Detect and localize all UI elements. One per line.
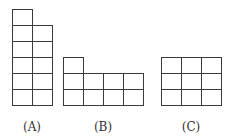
grid-cell — [201, 89, 222, 106]
figure-c-label: (C) — [182, 120, 201, 134]
grid-cell — [12, 89, 33, 106]
grid-cell — [201, 73, 222, 90]
grid-cell — [123, 89, 144, 106]
figure-b-label: (B) — [94, 120, 112, 134]
grid-cell — [63, 73, 84, 90]
grid-cell — [181, 73, 202, 90]
grid-cell — [12, 73, 33, 90]
grid-cell — [63, 57, 84, 74]
grid-cell — [181, 57, 202, 74]
grid-cell — [83, 89, 104, 106]
grid-cell — [161, 89, 182, 106]
grid-cell — [12, 57, 33, 74]
grid-cell — [103, 89, 124, 106]
grid-cell — [12, 25, 33, 42]
grid-cell — [32, 89, 53, 106]
grid-cell — [32, 25, 53, 42]
grid-cell — [12, 41, 33, 58]
grid-cell — [161, 57, 182, 74]
grid-cell — [32, 41, 53, 58]
diagram-canvas: (A) (B) (C) — [0, 0, 234, 136]
grid-cell — [63, 89, 84, 106]
grid-cell — [83, 73, 104, 90]
grid-cell — [123, 73, 144, 90]
grid-cell — [161, 73, 182, 90]
figure-a-label: (A) — [23, 120, 41, 134]
grid-cell — [32, 73, 53, 90]
grid-cell — [32, 57, 53, 74]
grid-cell — [12, 9, 33, 26]
grid-cell — [103, 73, 124, 90]
grid-cell — [181, 89, 202, 106]
grid-cell — [201, 57, 222, 74]
